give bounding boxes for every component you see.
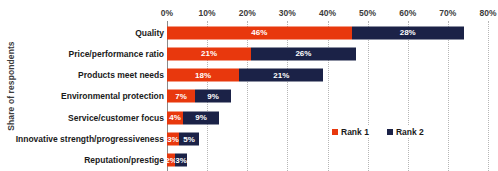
x-axis-tick-40pct: 40% xyxy=(319,8,336,18)
stacked-bar: 3%5% xyxy=(167,133,199,146)
category-label: Environmental protection xyxy=(61,91,164,101)
stacked-bar: 7%9% xyxy=(167,90,231,103)
bar-value-label: 3% xyxy=(175,156,187,164)
x-axis-tick-70pct: 70% xyxy=(439,8,456,18)
stacked-bar: 46%28% xyxy=(167,26,464,39)
bar-value-label: 46% xyxy=(251,29,267,37)
stacked-bar: 2%3% xyxy=(167,154,187,167)
bar-value-label: 3% xyxy=(167,135,179,143)
x-axis-tick-80pct: 80% xyxy=(479,8,496,18)
bar-value-label: 7% xyxy=(175,92,187,100)
bar-value-label: 9% xyxy=(207,92,219,100)
bar-chart: Share of respondents 0%10%20%30%40%50%60… xyxy=(0,0,498,171)
category-label: Innovative strength/progressiveness xyxy=(16,134,164,144)
bar-segment-rank-2: 28% xyxy=(352,26,464,39)
bar-segment-rank-2: 21% xyxy=(239,69,323,82)
bar-segment-rank-1: 18% xyxy=(167,69,239,82)
stacked-bar: 4%9% xyxy=(167,111,219,124)
x-axis-tick-30pct: 30% xyxy=(279,8,296,18)
bar-value-label: 5% xyxy=(183,135,195,143)
stacked-bar: 21%26% xyxy=(167,47,356,60)
legend-swatch-icon xyxy=(332,129,338,135)
x-axis-tick-60pct: 60% xyxy=(399,8,416,18)
x-axis-tick-50pct: 50% xyxy=(359,8,376,18)
bar-value-label: 9% xyxy=(195,114,207,122)
bar-segment-rank-2: 9% xyxy=(183,111,219,124)
bar-segment-rank-2: 9% xyxy=(195,90,231,103)
category-label: Service/customer focus xyxy=(68,113,164,123)
legend-label: Rank 1 xyxy=(341,127,369,137)
legend-item-rank-1[interactable]: Rank 1 xyxy=(332,127,369,137)
bar-segment-rank-1: 46% xyxy=(167,26,352,39)
category-label: Price/performance ratio xyxy=(69,49,164,59)
bar-segment-rank-1: 7% xyxy=(167,90,195,103)
category-label: Reputation/prestige xyxy=(84,155,164,165)
stacked-bar: 18%21% xyxy=(167,69,323,82)
bar-segment-rank-1: 3% xyxy=(167,133,179,146)
legend-item-rank-2[interactable]: Rank 2 xyxy=(387,127,424,137)
x-axis-tick-0pct: 0% xyxy=(161,8,173,18)
bar-segment-rank-2: 5% xyxy=(179,133,199,146)
chart-row: Reputation/prestige2%3% xyxy=(0,150,498,171)
category-label: Quality xyxy=(135,28,164,38)
bar-value-label: 18% xyxy=(195,71,211,79)
category-label: Products meet needs xyxy=(78,70,164,80)
bar-value-label: 26% xyxy=(295,50,311,58)
chart-rows: Quality46%28%Price/performance ratio21%2… xyxy=(0,22,498,171)
chart-row: Environmental protection7%9% xyxy=(0,86,498,107)
chart-row: Quality46%28% xyxy=(0,22,498,43)
bar-segment-rank-1: 21% xyxy=(167,47,251,60)
x-axis-tick-20pct: 20% xyxy=(239,8,256,18)
chart-legend: Rank 1Rank 2 xyxy=(330,126,426,138)
bar-segment-rank-1: 2% xyxy=(167,154,175,167)
bar-value-label: 28% xyxy=(400,29,416,37)
chart-row: Products meet needs18%21% xyxy=(0,65,498,86)
bar-value-label: 21% xyxy=(201,50,217,58)
bar-segment-rank-2: 3% xyxy=(175,154,187,167)
bar-segment-rank-2: 26% xyxy=(251,47,355,60)
legend-swatch-icon xyxy=(387,129,393,135)
bar-value-label: 4% xyxy=(169,114,181,122)
bar-value-label: 21% xyxy=(273,71,289,79)
x-axis-tick-labels: 0%10%20%30%40%50%60%70%80% xyxy=(167,8,488,20)
legend-label: Rank 2 xyxy=(396,127,424,137)
chart-row: Price/performance ratio21%26% xyxy=(0,43,498,64)
bar-segment-rank-1: 4% xyxy=(167,111,183,124)
x-axis-tick-10pct: 10% xyxy=(199,8,216,18)
